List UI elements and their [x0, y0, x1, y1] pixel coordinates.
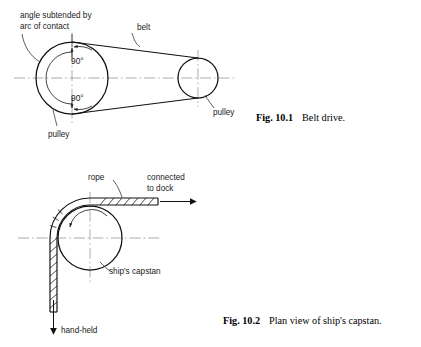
belt-label-leader — [132, 33, 140, 47]
figure-ships-capstan: rope connected to dock ship's capstan ha… — [18, 173, 196, 335]
large-pulley-label-leader — [53, 110, 57, 126]
diagram-canvas: 90° 90° angle subtended by arc of contac… — [0, 0, 421, 347]
rope — [50, 198, 158, 312]
small-pulley-label-leader — [205, 95, 214, 108]
rope-hatching-vertical — [50, 238, 57, 308]
rotation-arrow — [70, 210, 107, 227]
caption-figure-2: Fig. 10.2Plan view of ship's capstan. — [223, 315, 382, 326]
figure-belt-drive: 90° 90° angle subtended by arc of contac… — [14, 11, 236, 139]
belt-lower-span — [72, 98, 198, 114]
caption-figure-1-number: Fig. 10.1 — [256, 112, 293, 123]
caption-figure-1-text: Belt drive. — [302, 112, 345, 123]
caption-figure-2-number: Fig. 10.2 — [223, 315, 260, 326]
connected-to-dock-line2: to dock — [147, 184, 174, 193]
connected-to-dock-line1: connected — [147, 173, 185, 182]
angle-note-leader — [22, 34, 40, 62]
belt-upper-span — [72, 42, 198, 58]
technical-figure-page: 90° 90° angle subtended by arc of contac… — [0, 0, 421, 347]
rope-label-leader — [113, 180, 122, 197]
rope-label: rope — [88, 173, 105, 182]
angle-lower-label: 90° — [71, 93, 84, 103]
caption-figure-1: Fig. 10.1Belt drive. — [256, 112, 345, 123]
hand-held-label: hand-held — [61, 326, 98, 335]
rope-hatching-horizontal — [100, 198, 154, 205]
angle-note-line2: arc of contact — [20, 22, 70, 31]
angle-note-line1: angle subtended by — [20, 11, 92, 20]
caption-figure-2-text: Plan view of ship's capstan. — [269, 315, 381, 326]
angle-upper-label: 90° — [71, 56, 84, 66]
capstan-label: ship's capstan — [109, 267, 161, 276]
belt-label: belt — [137, 23, 151, 32]
small-pulley-label: pulley — [213, 108, 235, 117]
large-pulley-label: pulley — [48, 130, 70, 139]
